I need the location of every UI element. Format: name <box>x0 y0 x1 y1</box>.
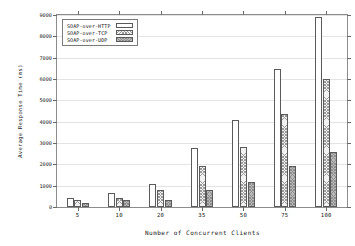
bar-soap-over-tcp-75 <box>281 114 288 207</box>
y-tick-mark <box>53 122 57 123</box>
y-tick-mark <box>347 207 351 208</box>
x-tick-mark <box>161 11 162 15</box>
y-tick-label: 2000 <box>40 161 53 167</box>
x-tick-label: 50 <box>240 212 247 218</box>
bar-soap-over-udp-5 <box>82 203 89 207</box>
x-tick-mark <box>285 207 286 211</box>
y-tick-mark <box>347 79 351 80</box>
y-tick-mark <box>53 164 57 165</box>
x-tick-mark <box>119 11 120 15</box>
x-tick-mark <box>243 207 244 211</box>
y-tick-mark <box>53 36 57 37</box>
bar-soap-over-udp-100 <box>330 152 337 207</box>
legend-swatch <box>116 30 133 35</box>
bar-soap-over-tcp-50 <box>240 147 247 207</box>
y-tick-label: 6000 <box>40 76 53 82</box>
x-tick-mark <box>202 207 203 211</box>
y-tick-label: 1000 <box>40 183 53 189</box>
y-tick-label: 9000 <box>40 12 53 18</box>
bar-soap-over-udp-10 <box>123 200 130 207</box>
x-tick-label: 75 <box>281 212 288 218</box>
legend-item: SOAP-over-TCP <box>67 29 133 36</box>
y-axis-title: Average Response Time (ms) <box>17 41 23 181</box>
y-tick-mark <box>53 100 57 101</box>
x-tick-label: 20 <box>157 212 164 218</box>
y-tick-mark <box>347 36 351 37</box>
y-tick-mark <box>53 186 57 187</box>
x-axis-title: Number of Concurrent Clients <box>55 229 350 236</box>
gridline <box>57 100 347 101</box>
x-tick-mark <box>78 207 79 211</box>
bar-soap-over-http-35 <box>191 148 198 207</box>
x-tick-label: 35 <box>198 212 205 218</box>
bar-soap-over-http-100 <box>315 17 322 207</box>
legend-item: SOAP-over-UDP <box>67 36 133 43</box>
legend-item: SOAP-over-HTTP <box>67 22 133 29</box>
x-tick-label: 5 <box>76 212 80 218</box>
y-tick-mark <box>347 15 351 16</box>
bar-soap-over-tcp-20 <box>157 190 164 207</box>
x-tick-mark <box>243 11 244 15</box>
y-tick-mark <box>347 164 351 165</box>
y-tick-mark <box>347 58 351 59</box>
bar-soap-over-udp-75 <box>289 166 296 207</box>
bar-soap-over-udp-50 <box>248 182 255 207</box>
bar-soap-over-tcp-100 <box>323 79 330 207</box>
gridline <box>57 79 347 80</box>
bar-soap-over-tcp-35 <box>199 166 206 207</box>
y-tick-mark <box>53 58 57 59</box>
bar-soap-over-http-20 <box>149 184 156 207</box>
gridline <box>57 143 347 144</box>
legend-label: SOAP-over-UDP <box>67 37 107 43</box>
y-tick-label: 7000 <box>40 55 53 61</box>
bar-soap-over-http-75 <box>274 69 281 207</box>
x-tick-mark <box>78 11 79 15</box>
y-tick-mark <box>53 207 57 208</box>
y-tick-mark <box>53 79 57 80</box>
x-tick-mark <box>119 207 120 211</box>
plot-area: 0100020003000400050006000700080009000 51… <box>56 14 348 208</box>
bar-soap-over-http-50 <box>232 120 239 207</box>
x-tick-mark <box>285 11 286 15</box>
y-tick-mark <box>347 186 351 187</box>
gridline <box>57 15 347 16</box>
gridline <box>57 122 347 123</box>
bar-chart: Average Response Time (ms) 0100020003000… <box>0 0 355 246</box>
y-tick-mark <box>53 15 57 16</box>
bar-soap-over-http-10 <box>108 193 115 207</box>
x-tick-mark <box>202 11 203 15</box>
y-tick-mark <box>347 143 351 144</box>
y-tick-label: 3000 <box>40 140 53 146</box>
legend-label: SOAP-over-HTTP <box>67 23 111 29</box>
y-tick-label: 5000 <box>40 97 53 103</box>
legend-swatch <box>116 23 133 28</box>
chart-legend: SOAP-over-HTTPSOAP-over-TCPSOAP-over-UDP <box>62 19 138 46</box>
x-tick-mark <box>326 207 327 211</box>
legend-swatch <box>116 37 133 42</box>
gridline <box>57 58 347 59</box>
legend-label: SOAP-over-TCP <box>67 30 107 36</box>
bar-soap-over-http-5 <box>67 198 74 207</box>
bar-soap-over-tcp-10 <box>116 198 123 207</box>
y-tick-mark <box>347 100 351 101</box>
y-tick-label: 4000 <box>40 119 53 125</box>
y-tick-label: 8000 <box>40 33 53 39</box>
y-tick-mark <box>347 122 351 123</box>
x-tick-mark <box>326 11 327 15</box>
bar-soap-over-tcp-5 <box>74 200 81 207</box>
y-tick-label: 0 <box>49 204 52 210</box>
bar-soap-over-udp-35 <box>206 190 213 207</box>
x-tick-label: 10 <box>115 212 122 218</box>
x-tick-mark <box>161 207 162 211</box>
x-tick-label: 100 <box>321 212 332 218</box>
y-tick-mark <box>53 143 57 144</box>
bar-soap-over-udp-20 <box>165 200 172 207</box>
